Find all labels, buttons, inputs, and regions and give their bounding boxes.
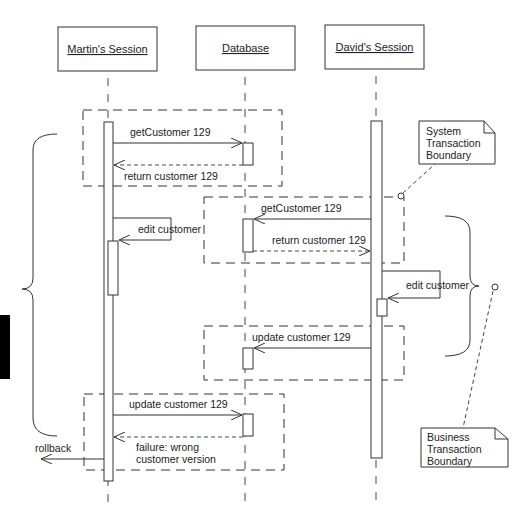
message-failure-return[interactable]: failure: wrong customer version <box>114 437 243 465</box>
activation-david <box>371 121 382 458</box>
note-system-transaction-boundary: System Transaction Boundary <box>419 121 495 164</box>
message-label: return customer 129 <box>272 234 366 246</box>
activation-database-4 <box>243 414 253 436</box>
business-transaction-brace-martin <box>22 134 57 436</box>
message-get-customer-david[interactable]: getCustomer 129 <box>254 202 371 219</box>
participant-martin[interactable]: Martin's Session <box>58 27 157 71</box>
message-get-customer-martin[interactable]: getCustomer 129 <box>113 126 242 143</box>
message-label-line2: customer version <box>136 453 216 465</box>
participant-david[interactable]: David's Session <box>325 25 424 69</box>
message-label: return customer 129 <box>124 170 218 182</box>
activation-database-1 <box>243 143 253 165</box>
note-line: Boundary <box>427 455 473 467</box>
note-line: Boundary <box>426 149 472 161</box>
activation-martin-edit <box>108 241 118 295</box>
message-return-customer-david[interactable]: return customer 129 <box>253 234 370 251</box>
message-label: edit customer <box>138 223 202 235</box>
message-label: getCustomer 129 <box>130 126 211 138</box>
message-label-line1: failure: wrong <box>136 441 199 453</box>
message-label: update customer 129 <box>129 398 228 410</box>
participant-label: David's Session <box>336 41 414 53</box>
note-line: Transaction <box>427 443 482 455</box>
message-edit-customer-martin[interactable]: edit customer <box>113 218 202 240</box>
message-label: getCustomer 129 <box>261 202 342 214</box>
message-label: edit customer <box>406 279 470 291</box>
note-line: System <box>426 125 461 137</box>
business-note-connector <box>463 291 493 428</box>
message-label: rollback <box>35 442 72 454</box>
note-line: Transaction <box>426 137 481 149</box>
note-line: Business <box>427 431 470 443</box>
message-update-customer-david[interactable]: update customer 129 <box>252 331 371 348</box>
activation-database-2 <box>243 219 253 252</box>
sequence-diagram: Martin's Session Database David's Sessio… <box>0 0 525 519</box>
participant-label: Database <box>222 42 269 54</box>
system-note-connector <box>403 164 435 193</box>
message-update-customer-martin[interactable]: update customer 129 <box>113 398 242 415</box>
message-return-customer-martin[interactable]: return customer 129 <box>114 165 243 182</box>
activation-david-edit <box>377 299 387 316</box>
system-boundary-anchor-icon <box>398 193 404 199</box>
participant-database[interactable]: Database <box>196 26 295 70</box>
message-edit-customer-david[interactable]: edit customer <box>382 271 470 298</box>
activation-database-3 <box>243 348 253 369</box>
activation-martin <box>104 122 113 481</box>
brace-anchor-icon <box>492 284 498 290</box>
message-rollback[interactable]: rollback <box>35 442 104 459</box>
note-business-transaction-boundary: Business Transaction Boundary <box>421 428 508 467</box>
participant-label: Martin's Session <box>67 43 147 55</box>
margin-mark <box>0 315 10 379</box>
message-label: update customer 129 <box>252 331 351 343</box>
